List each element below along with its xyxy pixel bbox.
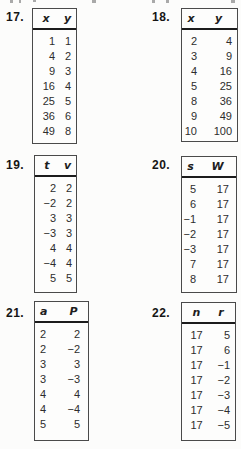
table-row: 4 4 (35, 386, 88, 401)
table-row: 49 8 (33, 123, 76, 138)
problem-number: 17. (6, 10, 24, 24)
cell-value: −1 (207, 359, 235, 371)
column-header: P (59, 305, 88, 318)
cell-value: 8 (59, 125, 76, 137)
cell-value: 17 (199, 183, 236, 195)
cell-value: 4 (200, 35, 237, 47)
cell-value: 3 (35, 358, 59, 370)
cell-value: 5 (182, 183, 199, 195)
data-table-21: a P 2 2 2 −2 3 3 3 −3 4 4 (34, 301, 89, 441)
cell-value: 5 (207, 329, 235, 341)
column-header: t (35, 159, 59, 172)
column-header: v (59, 159, 76, 172)
cell-value: −3 (59, 373, 88, 385)
table-row: 2 2 (35, 326, 88, 341)
table-row: 3 3 (35, 210, 76, 225)
cell-value: 4 (182, 65, 200, 77)
table-row: 4 4 (35, 240, 76, 255)
cell-value: 17 (182, 359, 207, 371)
table-row: 17 5 (182, 327, 235, 342)
cell-value: 2 (59, 328, 88, 340)
table-row: 5 5 (35, 416, 88, 431)
cell-value: 17 (199, 198, 236, 210)
data-table-18: x y 2 4 3 9 4 16 5 25 8 36 (181, 8, 238, 142)
cell-value: 2 (35, 328, 59, 340)
cell-value: 5 (182, 80, 200, 92)
table-body: 17 5 17 6 17 −1 17 −2 17 −3 17 −4 (182, 324, 235, 432)
table-row: 17 −4 (182, 402, 235, 417)
clipped-text-artifact (10, 0, 13, 3)
table-row: 36 6 (33, 108, 76, 123)
cell-value: 4 (35, 388, 59, 400)
cell-value: 36 (33, 110, 59, 122)
problem-number: 22. (152, 306, 170, 320)
column-header: W (199, 160, 236, 173)
cell-value: −4 (59, 403, 88, 415)
table-row: 16 4 (33, 78, 76, 93)
cell-value: 17 (182, 374, 207, 386)
table-row: 3 9 (182, 48, 237, 63)
table-row: 9 3 (33, 63, 76, 78)
problem-number: 19. (6, 158, 24, 172)
cell-value: −1 (182, 213, 199, 225)
table-row: 5 25 (182, 78, 237, 93)
column-header: y (200, 12, 237, 25)
cell-value: 4 (59, 257, 76, 269)
cell-value: 17 (199, 243, 236, 255)
cell-value: 7 (182, 258, 199, 270)
cell-value: 16 (200, 65, 237, 77)
cell-value: 36 (200, 95, 237, 107)
column-header: y (59, 12, 76, 25)
cell-value: 5 (59, 95, 76, 107)
cell-value: −4 (35, 257, 59, 269)
table-header-row: t v (35, 156, 76, 177)
problem-number: 18. (152, 10, 170, 24)
table-row: 9 49 (182, 108, 237, 123)
cell-value: 25 (200, 80, 237, 92)
cell-value: −3 (35, 227, 59, 239)
table-header-row: n r (182, 303, 235, 324)
cell-value: −2 (59, 343, 88, 355)
cell-value: 6 (59, 110, 76, 122)
cell-value: −3 (207, 389, 235, 401)
table-header-row: s W (182, 157, 236, 178)
table-body: 2 2 2 −2 3 3 3 −3 4 4 4 −4 (35, 323, 88, 431)
table-body: 5 17 6 17 −1 17 −2 17 −3 17 7 17 (182, 178, 236, 286)
cell-value: 4 (59, 242, 76, 254)
cell-value: 17 (182, 404, 207, 416)
clipped-text-artifact (152, 0, 155, 3)
cell-value: 3 (59, 65, 76, 77)
cell-value: 4 (35, 242, 59, 254)
column-header: a (35, 305, 59, 318)
cell-value: 2 (59, 182, 76, 194)
cell-value: 9 (33, 65, 59, 77)
table-row: 17 −3 (182, 387, 235, 402)
worksheet-page: 17. x y 1 1 4 2 9 3 16 4 25 (0, 0, 241, 449)
clipped-text-artifact (166, 0, 169, 3)
cell-value: 2 (35, 343, 59, 355)
cell-value: −2 (182, 228, 199, 240)
cell-value: 6 (182, 198, 199, 210)
table-body: 2 4 3 9 4 16 5 25 8 36 9 49 (182, 30, 237, 138)
table-row: 2 2 (35, 180, 76, 195)
table-row: 4 2 (33, 48, 76, 63)
table-row: −2 2 (35, 195, 76, 210)
table-row: 17 −5 (182, 417, 235, 432)
table-row: 3 −3 (35, 371, 88, 386)
clipped-text-artifact (231, 0, 235, 3)
cell-value: 2 (59, 197, 76, 209)
cell-value: 5 (59, 418, 88, 430)
cell-value: 100 (200, 125, 237, 137)
table-row: 5 5 (35, 270, 76, 285)
cell-value: 17 (182, 389, 207, 401)
table-header-row: a P (35, 302, 88, 323)
cell-value: −3 (182, 243, 199, 255)
table-row: −2 17 (182, 226, 236, 241)
clipped-text-artifact (19, 0, 21, 3)
cell-value: 8 (182, 273, 199, 285)
cell-value: 2 (182, 35, 200, 47)
cell-value: 9 (182, 110, 200, 122)
data-table-22: n r 17 5 17 6 17 −1 17 −2 17 −3 (181, 302, 236, 441)
cell-value: 17 (182, 329, 207, 341)
table-row: 3 3 (35, 356, 88, 371)
